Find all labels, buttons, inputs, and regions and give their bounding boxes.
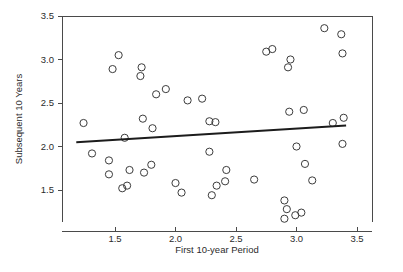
- x-tick-label: 1.5: [108, 233, 121, 244]
- plot-canvas: 1.52.02.53.03.5 1.52.02.53.03.5 First 10…: [0, 0, 403, 272]
- y-axis-title: Subsequent 10 Years: [13, 74, 24, 165]
- x-axis-title: First 10-year Period: [175, 244, 258, 255]
- scatter-plot-figure: 1.52.02.53.03.5 1.52.02.53.03.5 First 10…: [0, 0, 403, 272]
- y-tick-label: 2.5: [41, 97, 54, 108]
- y-tick-label: 2.0: [41, 141, 54, 152]
- x-tick-label: 2.5: [229, 233, 242, 244]
- x-tick-label: 3.5: [350, 233, 363, 244]
- y-tick-label: 3.5: [41, 10, 54, 21]
- y-tick-label: 3.0: [41, 54, 54, 65]
- y-tick-label: 1.5: [41, 184, 54, 195]
- x-tick-label: 2.0: [169, 233, 182, 244]
- x-tick-label: 3.0: [290, 233, 303, 244]
